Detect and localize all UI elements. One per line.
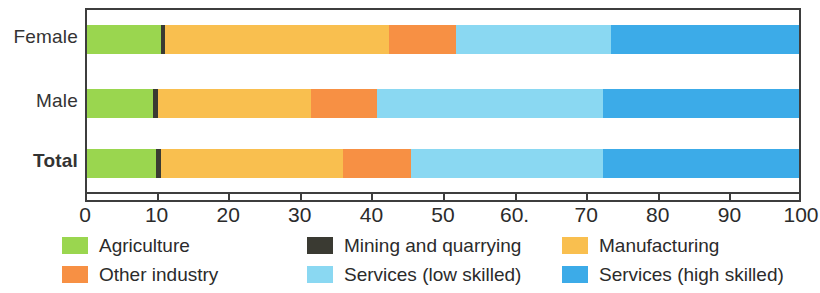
bar-row-total — [87, 149, 799, 178]
bar-segment-agriculture — [87, 89, 153, 118]
bar-segment-manufacturing — [165, 25, 389, 54]
legend-swatch-manufacturing — [562, 237, 588, 254]
bar-segment-manufacturing — [161, 149, 343, 178]
x-axis-tick-80 — [658, 194, 660, 202]
bar-segment-services-low-skilled — [377, 89, 603, 118]
bar-segment-services-high-skilled — [603, 89, 799, 118]
stacked-bar-chart: Female Male Total 0102030405060.70809010… — [0, 0, 820, 293]
x-axis-tick-label-10: 10 — [127, 203, 187, 227]
legend-label-agriculture: Agriculture — [99, 236, 190, 255]
x-axis-tick-50 — [443, 194, 445, 202]
x-axis-tick-30 — [300, 194, 302, 202]
x-axis-tick-label-50: 50 — [413, 203, 473, 227]
category-label-male: Male — [0, 90, 78, 112]
legend-item-services-low-skilled: Services (low skilled) — [307, 265, 521, 284]
bar-segment-other-industry — [311, 89, 377, 118]
x-axis-tick-label-60: 60. — [485, 203, 545, 227]
legend-item-mining-and-quarrying: Mining and quarrying — [307, 236, 521, 255]
bar-segment-manufacturing — [158, 89, 311, 118]
x-axis-tick-label-20: 20 — [198, 203, 258, 227]
x-axis-tick-0 — [85, 194, 87, 202]
x-axis-tick-label-80: 80 — [628, 203, 688, 227]
bar-segment-agriculture — [87, 149, 156, 178]
x-axis-tick-70 — [586, 194, 588, 202]
legend-swatch-services-low-skilled — [307, 266, 333, 283]
bar-segment-other-industry — [343, 149, 411, 178]
x-axis-tick-20 — [228, 194, 230, 202]
category-label-female: Female — [0, 26, 78, 48]
legend-swatch-other-industry — [62, 266, 88, 283]
x-axis-tick-label-100: 100 — [771, 203, 820, 227]
bar-segment-agriculture — [87, 25, 161, 54]
legend-item-other-industry: Other industry — [62, 265, 218, 284]
legend-swatch-services-high-skilled — [562, 266, 588, 283]
legend-swatch-agriculture — [62, 237, 88, 254]
x-axis-tick-label-40: 40 — [341, 203, 401, 227]
x-axis-tick-label-0: 0 — [55, 203, 115, 227]
bar-segment-services-low-skilled — [456, 25, 611, 54]
legend-item-services-high-skilled: Services (high skilled) — [562, 265, 784, 284]
legend-swatch-mining-and-quarrying — [307, 237, 333, 254]
x-axis-tick-100 — [799, 194, 801, 202]
legend-label-manufacturing: Manufacturing — [599, 236, 719, 255]
bar-row-female — [87, 25, 799, 54]
bar-segment-other-industry — [389, 25, 456, 54]
x-axis-tick-labels: 0102030405060.708090100 — [0, 203, 820, 231]
category-label-total: Total — [0, 150, 78, 172]
bar-segment-services-high-skilled — [603, 149, 799, 178]
chart-legend: Agriculture Mining and quarrying Manufac… — [62, 234, 820, 293]
bar-segment-services-low-skilled — [411, 149, 603, 178]
bars-layer — [87, 10, 799, 192]
x-axis-tick-40 — [371, 194, 373, 202]
legend-label-services-low-skilled: Services (low skilled) — [344, 265, 521, 284]
legend-item-agriculture: Agriculture — [62, 236, 190, 255]
x-axis-tick-label-30: 30 — [270, 203, 330, 227]
x-axis-tick-90 — [729, 194, 731, 202]
legend-item-manufacturing: Manufacturing — [562, 236, 719, 255]
x-axis-tick-label-70: 70 — [556, 203, 616, 227]
bar-row-male — [87, 89, 799, 118]
x-axis-tick-10 — [157, 194, 159, 202]
x-axis-tick-label-90: 90 — [699, 203, 759, 227]
legend-label-other-industry: Other industry — [99, 265, 218, 284]
x-axis-tick-60 — [515, 194, 517, 202]
bar-segment-services-high-skilled — [611, 25, 799, 54]
legend-label-mining-and-quarrying: Mining and quarrying — [344, 236, 521, 255]
legend-label-services-high-skilled: Services (high skilled) — [599, 265, 784, 284]
